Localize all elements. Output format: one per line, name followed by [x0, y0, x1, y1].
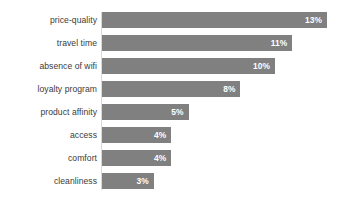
- category-label: cleanliness: [0, 173, 97, 189]
- category-label: product affinity: [0, 104, 97, 120]
- bar[interactable]: 4%: [102, 150, 171, 166]
- bar[interactable]: 8%: [102, 81, 240, 97]
- bar-track: 5%: [102, 104, 353, 120]
- bar-track: 4%: [102, 150, 353, 166]
- category-label: access: [0, 127, 97, 143]
- bar-value-label: 5%: [171, 104, 188, 120]
- category-label: comfort: [0, 150, 97, 166]
- bar[interactable]: 4%: [102, 127, 171, 143]
- category-label: price-quality: [0, 12, 97, 28]
- category-label: absence of wifi: [0, 58, 97, 74]
- bar-row: absence of wifi 10%: [0, 58, 353, 74]
- bar-row: cleanliness 3%: [0, 173, 353, 189]
- bar-row: loyalty program 8%: [0, 81, 353, 97]
- bar[interactable]: 3%: [102, 173, 154, 189]
- bar[interactable]: 10%: [102, 58, 275, 74]
- bar-value-label: 11%: [271, 35, 293, 51]
- bar-row: comfort 4%: [0, 150, 353, 166]
- bar-track: 13%: [102, 12, 353, 28]
- bar[interactable]: 13%: [102, 12, 327, 28]
- bar-track: 3%: [102, 173, 353, 189]
- bar-track: 11%: [102, 35, 353, 51]
- bar[interactable]: 5%: [102, 104, 189, 120]
- bar-row: access 4%: [0, 127, 353, 143]
- bar-track: 4%: [102, 127, 353, 143]
- bar-row: price-quality 13%: [0, 12, 353, 28]
- plot-area: price-quality 13% travel time 11% absenc…: [0, 12, 353, 197]
- bar-value-label: 3%: [137, 173, 154, 189]
- bar-row: product affinity 5%: [0, 104, 353, 120]
- bar-track: 10%: [102, 58, 353, 74]
- bar-chart: price-quality 13% travel time 11% absenc…: [0, 0, 353, 209]
- category-label: loyalty program: [0, 81, 97, 97]
- bar-value-label: 13%: [305, 12, 327, 28]
- bar-value-label: 4%: [154, 127, 171, 143]
- bar-row: travel time 11%: [0, 35, 353, 51]
- bar-value-label: 8%: [223, 81, 240, 97]
- bar[interactable]: 11%: [102, 35, 292, 51]
- bar-value-label: 10%: [253, 58, 275, 74]
- bar-value-label: 4%: [154, 150, 171, 166]
- category-label: travel time: [0, 35, 97, 51]
- bar-track: 8%: [102, 81, 353, 97]
